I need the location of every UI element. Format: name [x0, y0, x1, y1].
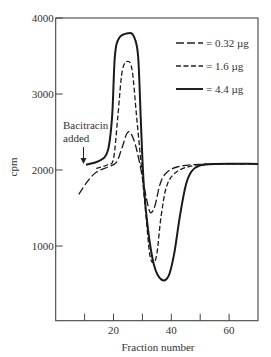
y-tick-label: 3000 [32, 88, 55, 100]
y-tick-label: 2000 [32, 164, 55, 176]
y-tick-label: 4000 [32, 12, 55, 24]
legend-label-2: = 4.4 µg [206, 83, 244, 95]
legend-label-0: = 0.32 µg [206, 37, 249, 49]
x-axis-ticks: 204060 [85, 314, 236, 336]
x-tick-label: 60 [224, 324, 236, 336]
y-axis-ticks: 1000200030004000 [32, 12, 63, 252]
chart: 1000200030004000 204060 cpm Fraction num… [0, 0, 271, 357]
legend-label-1: = 1.6 µg [206, 60, 244, 72]
annotation-line-2: added [63, 132, 90, 144]
y-axis-label: cpm [7, 157, 19, 176]
series-line-long-dash [79, 132, 258, 213]
annotation-bacitracin: Bacitracin added [63, 119, 109, 164]
x-tick-label: 40 [166, 324, 178, 336]
y-tick-label: 1000 [32, 240, 55, 252]
arrow-head-icon [81, 158, 87, 164]
annotation-line-1: Bacitracin [63, 119, 109, 131]
legend: = 0.32 µg = 1.6 µg = 4.4 µg [176, 37, 249, 95]
x-axis-label: Fraction number [121, 341, 194, 353]
x-tick-label: 20 [108, 324, 120, 336]
